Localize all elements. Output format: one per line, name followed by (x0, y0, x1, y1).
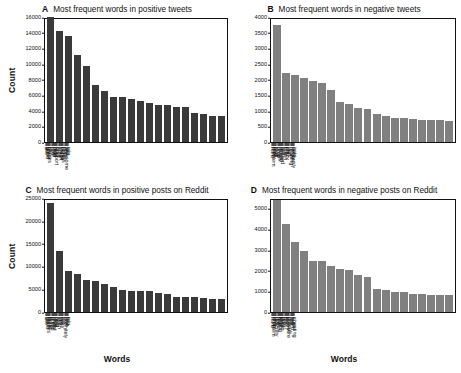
bar (336, 269, 344, 312)
panel-C-plotarea (44, 199, 228, 313)
bar (291, 75, 299, 142)
bar (83, 66, 91, 142)
bar (382, 116, 390, 142)
bar (373, 114, 381, 142)
x-tick-mark (68, 143, 69, 146)
bar (74, 274, 82, 312)
bar (119, 97, 127, 142)
bar (318, 261, 326, 312)
panel-A-plotarea (44, 18, 228, 143)
y-tick-label: 3000 (255, 248, 267, 254)
y-tick-label: 12000 (25, 46, 41, 52)
bar (92, 281, 100, 312)
panel-D: D Most frequent words in negative posts … (232, 185, 456, 371)
y-tick-label: 1000 (255, 109, 267, 115)
bar (200, 114, 208, 142)
bar (273, 25, 281, 142)
panel-D-title: D Most frequent words in negative posts … (232, 185, 456, 199)
bar (282, 224, 290, 312)
y-tick-label: 5000 (255, 207, 267, 213)
panel-B-bars (271, 19, 455, 142)
panel-D-yaxis: 010002000300040005000 (244, 199, 270, 313)
y-tick-label: 3500 (255, 31, 267, 37)
panel-A-yaxis: 0200040006000800010000120001400016000 (18, 18, 44, 143)
bar (56, 31, 64, 142)
y-tick-label: 1500 (255, 93, 267, 99)
y-tick-label: 6000 (29, 93, 41, 99)
x-tick-mark (294, 143, 295, 146)
bar (164, 105, 172, 142)
panel-D-xticks-row: hardproblemdroplawdifficultyfewerbadwron… (232, 313, 456, 353)
bar (354, 108, 362, 142)
bar (182, 107, 190, 142)
bar (327, 90, 335, 142)
y-tick-label: 2000 (255, 78, 267, 84)
bar (400, 118, 408, 142)
panel-C-xlabel: Words (6, 354, 228, 364)
y-tick-label: 4000 (255, 15, 267, 21)
panel-A-ylabel: Count (6, 18, 18, 143)
bar (65, 36, 73, 142)
bar (101, 284, 109, 312)
y-tick-label: 16000 (25, 15, 41, 21)
y-tick-label: 10000 (25, 62, 41, 68)
bar (209, 299, 217, 312)
bar (418, 120, 426, 142)
bar (200, 298, 208, 312)
panel-C: C Most frequent words in positive posts … (6, 185, 228, 371)
bar (155, 105, 163, 142)
panel-A: A Most frequent words in positive tweets… (6, 4, 228, 186)
bar (209, 116, 217, 142)
bar (110, 97, 118, 142)
x-tick-label: win (65, 147, 70, 155)
bar (191, 113, 199, 142)
bar (327, 266, 335, 312)
panel-A-xticks-row: likegoodgreatthanksjoinfunlovehelpnicesu… (6, 143, 228, 183)
bar (137, 291, 145, 312)
y-tick-label: 1000 (255, 289, 267, 295)
bar (445, 295, 453, 312)
bar (173, 297, 181, 312)
bar (391, 292, 399, 312)
y-tick-label: 2000 (255, 269, 267, 275)
panel-D-yaxis-spacer (244, 313, 270, 353)
bar (155, 293, 163, 312)
bar (345, 104, 353, 142)
x-tick-mark (68, 313, 69, 316)
y-tick-label: 14000 (25, 31, 41, 37)
y-tick-label: 8000 (29, 78, 41, 84)
bar (137, 101, 145, 142)
bar (427, 295, 435, 313)
bar (345, 270, 353, 312)
bar (418, 294, 426, 312)
bar (409, 119, 417, 142)
panel-B-yaxis-spacer (244, 143, 270, 183)
x-tick-label: win (65, 317, 70, 325)
y-tick-label: 4000 (29, 109, 41, 115)
panel-A-plot: Count 0200040006000800010000120001400016… (6, 18, 228, 143)
panel-C-xticks-row: likegoodthankssurebettergreatprettysmart… (6, 313, 228, 353)
panel-A-yaxis-spacer (18, 143, 44, 183)
bar (400, 292, 408, 312)
panel-A-xticks: likegoodgreatthanksjoinfunlovehelpnicesu… (44, 143, 70, 183)
bar (110, 287, 118, 312)
bar (445, 121, 453, 142)
y-tick-label: 2500 (255, 62, 267, 68)
bar (47, 203, 55, 312)
panel-D-plot: 010002000300040005000 (232, 199, 456, 313)
bar (128, 99, 136, 142)
bar (364, 109, 372, 142)
y-tick-label: 25000 (25, 196, 41, 202)
bar (354, 275, 362, 312)
bar (92, 85, 100, 142)
y-tick-label: 20000 (25, 219, 41, 225)
bar (373, 289, 381, 312)
panel-D-bars (271, 200, 455, 312)
panel-A-bars (45, 19, 227, 142)
panel-A-heading: Most frequent words in positive tweets (53, 5, 192, 14)
panel-B-letter: B (267, 4, 273, 14)
panel-B-yaxis: 05001000150020002500300035004000 (244, 18, 270, 143)
bar (300, 251, 308, 312)
y-tick-label: 10000 (25, 265, 41, 271)
bar (146, 291, 154, 312)
